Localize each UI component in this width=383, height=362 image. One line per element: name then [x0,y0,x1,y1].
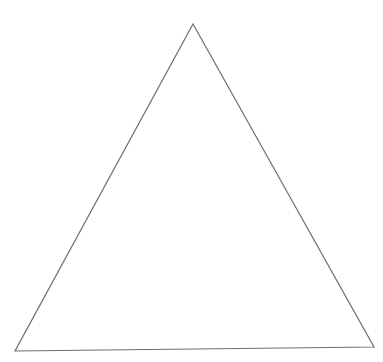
diagram-canvas [0,0,383,362]
triangle-shape [15,24,374,351]
